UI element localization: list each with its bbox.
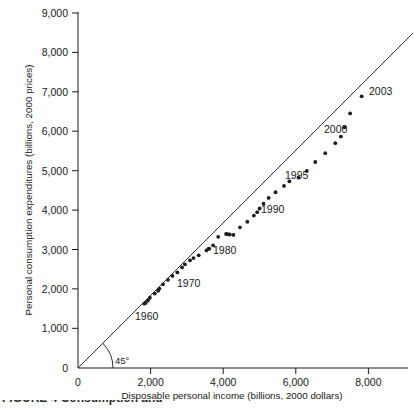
scatter-chart: 45° 9,000 8,000 7,000 6,000 5,000 4,000 … [0,0,414,408]
data-point [348,111,352,115]
annotation-2003: 2003 [369,85,393,97]
annotation-1980: 1980 [213,244,237,256]
data-point [228,233,232,237]
x-tick-label-6000: 6,000 [283,376,309,388]
data-point [188,258,192,262]
data-point [258,207,262,211]
figure-caption-strip: FIGURE 4 Consumption and [0,400,414,408]
figure-container: 45° 9,000 8,000 7,000 6,000 5,000 4,000 … [0,0,414,408]
data-point [297,176,301,180]
y-tick-label-5000: 5,000 [42,165,68,177]
data-point [262,202,266,206]
data-point [207,247,211,251]
data-point [287,179,291,183]
data-point [274,190,278,194]
data-point [360,94,364,98]
data-point [282,184,286,188]
y-tick-label-6000: 6,000 [42,125,68,137]
figure-caption: FIGURE 4 Consumption and [2,400,163,405]
data-point [180,266,184,270]
data-point [211,243,215,247]
y-tick-label-2000: 2,000 [42,283,68,295]
data-point [197,253,201,257]
annotation-1970: 1970 [177,277,201,289]
y-axis-title: Personal consumption expenditures (billi… [23,64,34,315]
data-point [252,214,256,218]
data-point [313,160,317,164]
data-point [148,296,152,300]
data-point [216,235,220,239]
x-tick-label-2000: 2,000 [137,376,163,388]
angle-label: 45° [115,355,130,366]
y-tick-label-8000: 8,000 [42,46,68,58]
data-point [153,292,157,296]
y-tick-label-3000: 3,000 [42,244,68,256]
y-tick-label-4000: 4,000 [42,204,68,216]
data-point [232,233,236,237]
data-point [171,274,175,278]
data-point [267,196,271,200]
y-tick-label-0: 0 [62,362,68,374]
data-point [175,271,179,275]
y-tick-label-9000: 9,000 [42,7,68,19]
data-point [255,210,259,214]
data-point [238,225,242,229]
y-tick-label-1000: 1,000 [42,322,68,334]
data-point [158,287,162,291]
x-tick-label-4000: 4,000 [210,376,236,388]
data-point [183,262,187,266]
data-point [166,278,170,282]
y-tick-label-7000: 7,000 [42,86,68,98]
data-point [323,151,327,155]
data-point [333,141,337,145]
x-tick-label-0: 0 [75,376,81,388]
x-tick-label-8000: 8,000 [355,376,381,388]
data-point [161,282,165,286]
data-point [192,256,196,260]
data-point [343,125,347,129]
data-point [339,135,343,139]
data-point [245,220,249,224]
annotation-1960: 1960 [135,310,159,322]
data-point [305,169,309,173]
